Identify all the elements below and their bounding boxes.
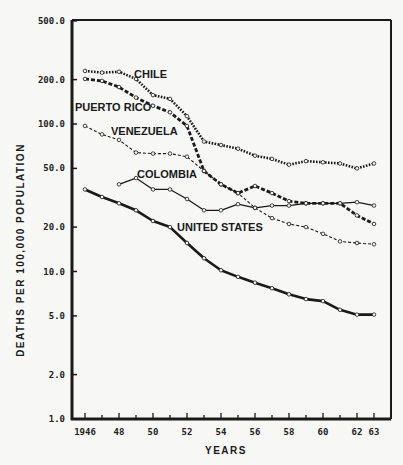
data-point <box>270 157 274 161</box>
data-point <box>185 197 189 201</box>
x-axis-title: YEARS <box>205 445 247 456</box>
data-point <box>134 151 138 155</box>
data-point <box>321 160 325 164</box>
data-point <box>117 183 121 187</box>
data-point <box>355 200 359 204</box>
data-point <box>304 225 308 229</box>
data-point <box>355 214 359 218</box>
data-point <box>270 216 274 220</box>
series-chile <box>83 69 376 170</box>
data-point <box>100 71 104 75</box>
chart-canvas: 500.0200.0100.050.020.010.05.02.01.0 194… <box>0 0 403 465</box>
y-tick-label: 200.0 <box>38 75 65 85</box>
data-point <box>168 111 172 115</box>
data-point <box>236 202 240 206</box>
data-point <box>168 225 172 229</box>
data-point <box>168 152 172 156</box>
data-point <box>219 268 223 272</box>
x-tick-label: 50 <box>148 427 159 437</box>
series-colombia <box>117 176 376 212</box>
data-point <box>270 286 274 290</box>
y-tick-label: 20.0 <box>43 222 65 232</box>
series-label-united-states: UNITED STATES <box>177 221 263 233</box>
data-point <box>219 208 223 212</box>
data-point <box>185 124 189 128</box>
data-point <box>304 297 308 301</box>
data-point <box>270 191 274 195</box>
data-point <box>100 195 104 199</box>
data-point <box>338 201 342 205</box>
y-axis-title: DEATHS PER 100,000 POPULATION <box>15 143 26 357</box>
x-tick-label: 1946 <box>74 427 96 437</box>
data-point <box>151 104 155 108</box>
data-point <box>270 204 274 208</box>
y-tick-label: 100.0 <box>38 119 65 129</box>
x-axis-ticks: 1946485052545658606263 <box>74 413 379 437</box>
data-point <box>355 241 359 245</box>
data-point <box>287 204 291 208</box>
y-tick-label: 50.0 <box>43 163 65 173</box>
data-point <box>202 208 206 212</box>
series-label-puerto-rico: PUERTO RICO <box>75 101 152 113</box>
data-point <box>83 188 87 192</box>
data-point <box>372 313 376 317</box>
data-point <box>134 96 138 100</box>
x-tick-label: 60 <box>318 427 329 437</box>
data-point <box>168 188 172 192</box>
y-tick-label: 10.0 <box>43 267 65 277</box>
x-tick-label: 62 <box>352 427 363 437</box>
data-point <box>304 201 308 205</box>
data-point <box>236 191 240 195</box>
series-label-chile: CHILE <box>134 68 167 80</box>
data-point <box>202 140 206 144</box>
data-point <box>253 184 257 188</box>
data-point <box>236 275 240 279</box>
series-labels: CHILEPUERTO RICOVENEZUELACOLOMBIAUNITED … <box>75 68 263 233</box>
data-point <box>321 232 325 236</box>
data-point <box>372 242 376 246</box>
data-point <box>117 201 121 205</box>
data-point <box>338 240 342 244</box>
data-point <box>151 188 155 192</box>
data-point <box>338 162 342 166</box>
data-point <box>151 152 155 156</box>
data-point <box>185 241 189 245</box>
data-point <box>202 256 206 260</box>
x-tick-label: 58 <box>284 427 295 437</box>
data-point <box>304 159 308 163</box>
data-point <box>321 299 325 303</box>
data-point <box>355 313 359 317</box>
y-tick-label: 1.0 <box>49 414 65 424</box>
data-point <box>151 93 155 97</box>
data-point <box>372 204 376 208</box>
x-tick-label: 56 <box>250 427 261 437</box>
data-point <box>100 79 104 83</box>
data-point <box>287 163 291 167</box>
x-tick-label: 63 <box>369 427 380 437</box>
data-point <box>185 155 189 159</box>
data-point <box>168 97 172 101</box>
data-point <box>287 293 291 297</box>
data-point <box>219 183 223 187</box>
data-point <box>355 167 359 171</box>
data-point <box>202 169 206 173</box>
data-point <box>372 162 376 166</box>
data-point <box>151 219 155 223</box>
x-tick-label: 48 <box>114 427 125 437</box>
data-point <box>253 154 257 158</box>
data-point <box>253 206 257 210</box>
plot-frame <box>71 20 391 420</box>
data-point <box>219 143 223 147</box>
data-point <box>117 85 121 89</box>
data-point <box>134 208 138 212</box>
data-point <box>117 70 121 74</box>
data-point <box>287 199 291 203</box>
data-point <box>287 222 291 226</box>
data-point <box>83 124 87 128</box>
data-point <box>253 281 257 285</box>
data-point <box>117 138 121 142</box>
data-point <box>338 308 342 312</box>
y-tick-label: 2.0 <box>49 370 65 380</box>
x-tick-label: 52 <box>182 427 193 437</box>
data-point <box>83 77 87 81</box>
